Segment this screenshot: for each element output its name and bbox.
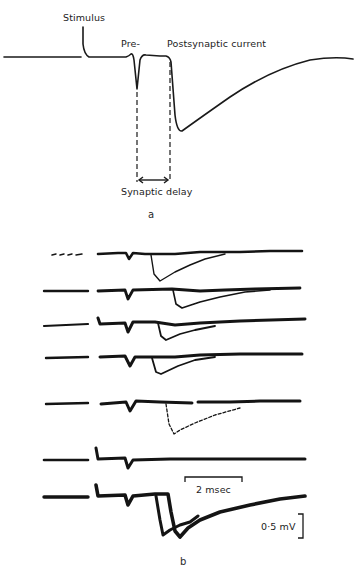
synaptic-delay-markers (137, 62, 170, 183)
postsynaptic-current-label: Postsynaptic current (167, 38, 266, 49)
panel-a-letter: a (148, 209, 154, 220)
time-scale-bar (185, 477, 242, 482)
panel-b-letter: b (180, 556, 186, 567)
pre-label: Pre- (121, 38, 140, 49)
panel-b-traces (44, 251, 305, 537)
time-scale-label: 2 msec (196, 484, 231, 495)
figure-drawing (0, 0, 362, 573)
voltage-scale-bar (298, 514, 303, 538)
synaptic-delay-label: Synaptic delay (121, 186, 193, 197)
stimulus-label: Stimulus (63, 12, 105, 23)
voltage-scale-label: 0·5 mV (261, 521, 295, 532)
